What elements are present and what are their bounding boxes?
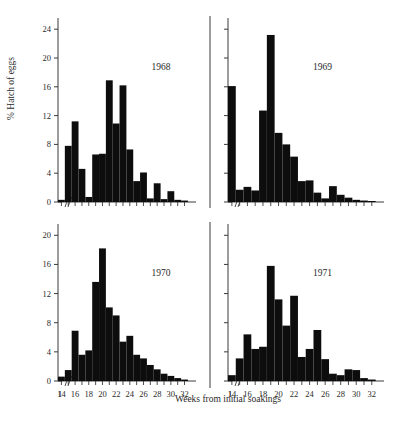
y-tick-label-20: 20 — [43, 53, 52, 63]
bar-1971-week-23 — [298, 357, 306, 381]
x-tick-label-bottom-right-26: 26 — [321, 389, 330, 399]
bar-1971-week-17 — [251, 349, 259, 381]
bar-1969-week-18 — [259, 111, 267, 202]
x-tick-label-bottom-right-28: 28 — [336, 389, 345, 399]
panel-year-label-1971: 1971 — [313, 268, 332, 278]
bar-1971-week-18 — [259, 347, 267, 381]
y-tick-label-16: 16 — [43, 259, 52, 269]
bar-1971-week-14 — [228, 375, 236, 381]
x-tick-label-bottom-left-24: 24 — [126, 389, 135, 399]
y-tick-label-0: 0 — [47, 376, 51, 386]
x-tick-label-bottom-left-30: 30 — [167, 389, 176, 399]
bar-1968-week-20 — [99, 154, 106, 202]
bar-1970-week-22 — [113, 315, 120, 381]
bar-1969-week-28 — [337, 195, 345, 202]
y-tick-label-12: 12 — [43, 289, 52, 299]
bar-1969-week-19 — [267, 35, 275, 202]
bar-1970-week-25 — [133, 355, 140, 381]
bar-1968-week-26 — [140, 172, 147, 202]
bar-1970-week-16 — [72, 331, 79, 381]
bar-1971-week-21 — [282, 326, 290, 381]
x-axis-title: Weeks from initial soakings — [175, 394, 281, 404]
bar-1970-week-30 — [167, 376, 174, 381]
bar-1968-week-22 — [113, 124, 120, 202]
bar-1970-week-15 — [65, 370, 72, 381]
bar-1970-week-20 — [99, 248, 106, 381]
x-tick-label-bottom-right-30: 30 — [352, 389, 361, 399]
panel-year-label-1968: 1968 — [151, 62, 170, 72]
bar-1971-week-26 — [321, 359, 329, 381]
bar-1971-week-32 — [368, 380, 376, 381]
bar-1968-week-15 — [65, 146, 72, 202]
y-axis-title: % Hatch of eggs — [6, 57, 16, 120]
bar-1968-week-16 — [72, 121, 79, 202]
bar-1971-week-19 — [267, 266, 275, 381]
x-tick-label-bottom-left-22: 22 — [112, 389, 121, 399]
bar-1971-week-29 — [345, 369, 353, 381]
bar-1969-week-22 — [290, 157, 298, 202]
bar-1969-week-31 — [360, 201, 368, 202]
bar-1969-week-21 — [282, 144, 290, 202]
bar-1970-week-32 — [181, 380, 188, 381]
bar-1968-week-25 — [133, 181, 140, 202]
bar-1970-week-18 — [85, 350, 92, 381]
bar-1970-week-26 — [140, 358, 147, 381]
y-tick-label-16: 16 — [43, 82, 52, 92]
x-tick-label-bottom-right-32: 32 — [368, 389, 377, 399]
x-tick-label-bottom-right-22: 22 — [290, 389, 299, 399]
bar-1971-week-30 — [352, 370, 360, 381]
bar-1968-week-17 — [79, 169, 86, 202]
bar-1971-week-15 — [236, 358, 244, 381]
bar-1971-week-24 — [306, 349, 314, 381]
bar-1969-week-17 — [251, 190, 259, 202]
bar-1968-week-18 — [85, 197, 92, 202]
bar-1970-week-28 — [154, 369, 161, 381]
y-tick-label-12: 12 — [43, 111, 52, 121]
bar-1968-week-14 — [58, 200, 65, 202]
bar-1971-week-25 — [313, 330, 321, 381]
bar-1971-week-27 — [329, 374, 337, 381]
x-tick-label-bottom-left-28: 28 — [153, 389, 162, 399]
bar-1968-week-29 — [161, 199, 168, 202]
bar-1970-week-24 — [126, 336, 133, 381]
bar-1969-week-27 — [329, 186, 337, 202]
histogram-panels-chart: 0481216202419681969048121620197019711141… — [0, 0, 397, 422]
bar-1969-week-14 — [228, 86, 236, 202]
bar-1969-week-29 — [345, 198, 353, 202]
bar-1971-week-22 — [290, 296, 298, 381]
y-tick-label-20: 20 — [43, 230, 52, 240]
y-tick-label-8: 8 — [47, 318, 51, 328]
y-tick-label-4: 4 — [47, 347, 52, 357]
bar-1969-week-25 — [313, 193, 321, 202]
x-tick-label-bottom-left-18: 18 — [85, 389, 94, 399]
bar-1969-week-23 — [298, 181, 306, 202]
bar-1969-week-30 — [352, 200, 360, 202]
bar-1971-week-28 — [337, 375, 345, 381]
y-tick-label-4: 4 — [47, 168, 52, 178]
x-tick-label-bottom-left-26: 26 — [139, 389, 148, 399]
bar-1969-week-32 — [368, 201, 376, 202]
panel-year-label-1969: 1969 — [313, 62, 332, 72]
bar-1968-week-23 — [120, 85, 127, 202]
bar-1968-week-21 — [106, 80, 113, 202]
y-tick-label-24: 24 — [43, 24, 52, 34]
bar-1970-week-31 — [174, 378, 181, 381]
bar-1970-week-19 — [92, 282, 99, 381]
figure-container: 0481216202419681969048121620197019711141… — [0, 0, 397, 422]
bar-1968-week-28 — [154, 183, 161, 202]
bar-1969-week-24 — [306, 180, 314, 202]
bar-1970-week-27 — [147, 365, 154, 381]
bar-1968-week-31 — [174, 200, 181, 202]
x-tick-label-bottom-left-14: 14 — [57, 389, 66, 399]
bar-1968-week-19 — [92, 154, 99, 202]
y-tick-label-8: 8 — [47, 139, 51, 149]
bar-1968-week-32 — [181, 201, 188, 202]
bar-1971-week-20 — [275, 299, 283, 381]
bar-1970-week-23 — [120, 342, 127, 381]
bar-1969-week-16 — [244, 187, 252, 202]
x-tick-label-bottom-right-24: 24 — [305, 389, 314, 399]
bar-1969-week-26 — [321, 198, 329, 202]
y-tick-label-0: 0 — [47, 197, 51, 207]
panel-year-label-1970: 1970 — [151, 268, 170, 278]
bar-1969-week-15 — [236, 190, 244, 202]
